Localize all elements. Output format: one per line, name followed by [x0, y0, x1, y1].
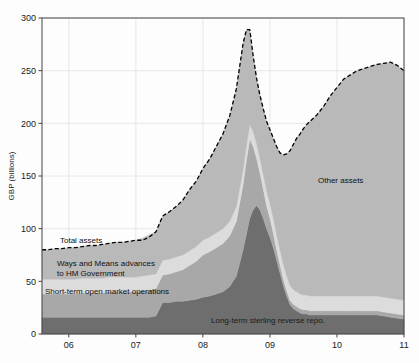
- x-tick-label: 10: [332, 340, 342, 350]
- x-tick-label: 11: [399, 340, 408, 350]
- x-tick-label: 07: [131, 340, 141, 350]
- x-tick-label: 09: [265, 340, 275, 350]
- annotation-total-assets: Total assets: [60, 236, 102, 245]
- stacked-area-chart: 050100150200250300 060708091011 GBP (bil…: [0, 0, 419, 363]
- y-tick-label: 200: [21, 119, 36, 129]
- y-tick-label: 100: [21, 224, 36, 234]
- y-tick-label: 250: [21, 66, 36, 76]
- annotation-ways-and-means-line1: Ways and Means advances: [57, 259, 155, 268]
- x-tick-label: 06: [64, 340, 74, 350]
- y-tick-label: 150: [21, 171, 36, 181]
- annotation-ways-and-means-line2: to HM Government: [57, 269, 125, 278]
- y-tick-label: 50: [26, 277, 36, 287]
- annotation-long-term-repo: Long-term sterling reverse repo.: [211, 316, 325, 325]
- chart-container: 050100150200250300 060708091011 GBP (bil…: [0, 0, 419, 363]
- annotation-other-assets: Other assets: [318, 176, 363, 185]
- y-tick-label: 0: [31, 329, 36, 339]
- y-axis-label: GBP (billions): [7, 151, 16, 200]
- x-tick-label: 08: [198, 340, 208, 350]
- y-tick-label: 300: [21, 13, 36, 23]
- annotation-short-term-omo: Short-term open market operations: [45, 287, 169, 296]
